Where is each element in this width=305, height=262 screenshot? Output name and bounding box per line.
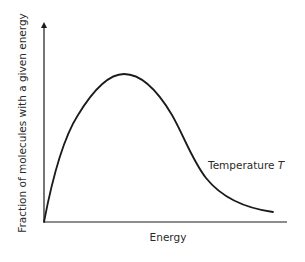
distribution-chart <box>0 0 305 262</box>
distribution-curve <box>44 74 273 222</box>
annotation-variable: T <box>278 159 284 171</box>
curve-annotation: Temperature T <box>208 159 284 171</box>
y-axis-label: Fraction of molecules with a given energ… <box>16 13 28 233</box>
annotation-text: Temperature <box>208 159 278 171</box>
x-axis-label: Energy <box>150 231 187 243</box>
